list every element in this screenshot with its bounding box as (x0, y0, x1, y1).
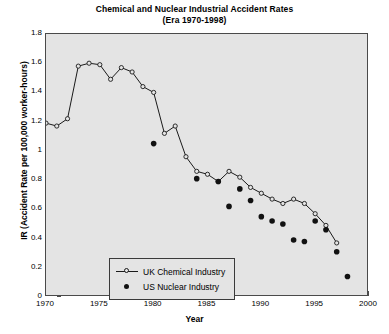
x-tick-label: 2000 (348, 300, 388, 308)
data-point (184, 155, 188, 159)
data-point (205, 172, 209, 176)
y-axis-label: IR (Accident Rate per 100,000 worker-hou… (20, 31, 29, 271)
data-point (76, 64, 80, 68)
chart-legend: UK Chemical Industry US Nuclear Industry (109, 258, 235, 300)
data-point (162, 131, 166, 135)
x-tick-label: 1995 (294, 300, 334, 308)
legend-label-us-nuclear: US Nuclear Industry (143, 282, 219, 292)
data-point (335, 241, 339, 245)
data-point (109, 77, 113, 81)
x-axis-label: Year (0, 314, 389, 324)
data-point (259, 191, 263, 195)
series-line-0 (46, 63, 337, 243)
data-point (151, 141, 157, 147)
x-tick-label: 1975 (79, 300, 119, 308)
data-point (141, 85, 145, 89)
data-point (238, 175, 242, 179)
line-open-circle-marker-icon (116, 267, 138, 277)
data-point (334, 249, 340, 255)
chart-figure: Chemical and Nuclear Industrial Accident… (0, 0, 389, 334)
x-tick-label: 1985 (187, 300, 227, 308)
x-tick-label: 1980 (133, 300, 173, 308)
data-point (292, 197, 296, 201)
data-point (281, 201, 285, 205)
data-point (226, 204, 232, 210)
data-point (195, 169, 199, 173)
data-point (248, 185, 252, 189)
data-point (55, 124, 59, 128)
legend-label-uk-chemical: UK Chemical Industry (143, 267, 225, 277)
filled-circle-marker-icon (116, 282, 138, 292)
data-point (87, 61, 91, 65)
data-point (302, 239, 308, 245)
data-point (280, 221, 286, 227)
data-point (65, 117, 69, 121)
data-point (194, 176, 200, 182)
data-point (227, 169, 231, 173)
data-point (119, 66, 123, 70)
data-point (323, 227, 329, 233)
data-point (291, 237, 297, 243)
data-point (302, 201, 306, 205)
data-point (312, 218, 318, 224)
data-point (130, 70, 134, 74)
data-point (324, 223, 328, 227)
data-point (46, 121, 48, 125)
data-point (173, 124, 177, 128)
data-point (270, 197, 274, 201)
data-point (259, 214, 265, 220)
data-point (248, 198, 254, 204)
data-point (237, 186, 243, 192)
data-point (152, 90, 156, 94)
plot-area: UK Chemical Industry US Nuclear Industry (45, 33, 368, 296)
data-point (345, 274, 351, 280)
x-tick-label: 1990 (240, 300, 280, 308)
data-point (98, 63, 102, 67)
x-tick-label: 1970 (25, 300, 65, 308)
data-point (313, 212, 317, 216)
legend-item-us-nuclear: US Nuclear Industry (116, 279, 225, 294)
legend-item-uk-chemical: UK Chemical Industry (116, 264, 225, 279)
data-point (215, 179, 221, 185)
data-point (269, 218, 275, 224)
